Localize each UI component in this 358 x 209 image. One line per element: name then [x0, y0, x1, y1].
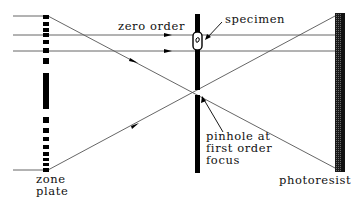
first-order-arrow-icons: [129, 58, 139, 129]
pinhole-pointer: [201, 96, 223, 132]
specimen-pointer: [205, 22, 222, 40]
zone-plate: [43, 15, 49, 172]
zero-order-label: zero order: [118, 19, 185, 33]
incoming-rays: [13, 16, 46, 170]
optics-diagram: zero order specimen pinhole at first ord…: [0, 0, 358, 209]
specimen: [193, 32, 202, 50]
zone-plate-label-line2: plate: [36, 184, 68, 198]
zero-order-arrow-icons: [164, 33, 172, 53]
photoresist: [335, 13, 345, 172]
pinhole-label-line3: focus: [206, 153, 240, 167]
photoresist-label: photoresist: [279, 173, 351, 187]
specimen-label: specimen: [225, 12, 285, 26]
first-order-rays: [48, 16, 335, 170]
